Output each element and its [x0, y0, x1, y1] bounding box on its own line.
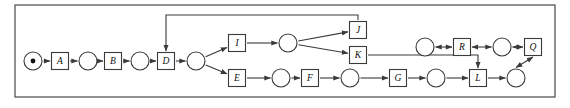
place-p1	[79, 52, 97, 70]
petri-net-diagram: ABDIEJKFGLRQ	[0, 0, 570, 108]
arc-p3-to-E	[206, 65, 227, 74]
transition-label-Q: Q	[530, 42, 537, 52]
place-p0	[24, 52, 42, 70]
transition-I: I	[229, 35, 246, 52]
arc-K-to-L	[368, 55, 478, 68]
transition-label-R: R	[458, 42, 465, 52]
place-p7	[427, 69, 445, 87]
transition-F: F	[302, 70, 319, 87]
transition-label-A: A	[56, 56, 63, 66]
transition-Q: Q	[525, 39, 542, 56]
place-p4	[279, 34, 297, 52]
arc-p3-to-I	[206, 47, 227, 56]
transition-J: J	[350, 22, 367, 39]
place-p3	[187, 52, 205, 70]
transition-B: B	[105, 53, 122, 70]
transition-K: K	[350, 47, 367, 64]
transition-label-E: E	[233, 73, 240, 83]
place-p6	[341, 69, 359, 87]
arc-p8-to-Q	[516, 57, 533, 68]
place-p5	[272, 69, 290, 87]
token-marker	[31, 59, 36, 64]
place-p2	[131, 52, 149, 70]
transition-label-L: L	[474, 73, 480, 83]
transition-label-G: G	[395, 73, 402, 83]
transition-label-K: K	[354, 50, 362, 60]
place-p10	[493, 38, 511, 56]
transition-R: R	[454, 39, 471, 56]
transition-L: L	[470, 70, 487, 87]
transition-A: A	[52, 53, 69, 70]
arc-J-to-D	[166, 15, 358, 51]
transition-label-D: D	[162, 56, 170, 66]
transition-E: E	[229, 70, 246, 87]
petri-net-canvas: ABDIEJKFGLRQ	[0, 0, 570, 108]
node-layer: ABDIEJKFGLRQ	[24, 22, 542, 88]
transition-label-F: F	[306, 73, 313, 83]
transition-label-B: B	[110, 56, 116, 66]
arc-p4-to-J	[298, 32, 348, 41]
arc-p4-to-K	[298, 45, 348, 54]
transition-D: D	[158, 53, 175, 70]
place-p9	[416, 38, 434, 56]
transition-G: G	[390, 70, 407, 87]
place-p8	[507, 69, 525, 87]
